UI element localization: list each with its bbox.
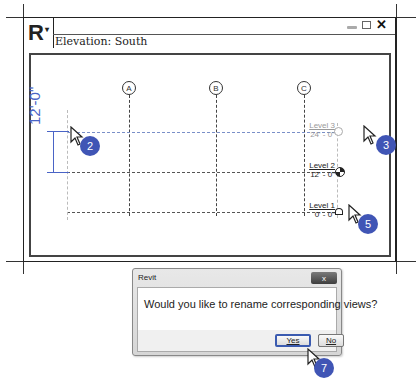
step-number: 5 — [365, 218, 371, 230]
step-badge-5: 5 — [358, 214, 378, 234]
dialog-body: Would you like to rename corresponding v… — [137, 287, 337, 332]
grid-label: A — [126, 84, 131, 93]
grid-line-c[interactable] — [304, 95, 305, 216]
level-extent-left — [67, 110, 68, 220]
drawing-canvas[interactable]: A B C Level 3 24' - 0" Level 2 12' - 0" … — [29, 53, 391, 257]
minimize-icon[interactable] — [347, 26, 357, 29]
close-icon: x — [322, 274, 326, 283]
step-number: 7 — [321, 362, 327, 374]
no-button-face[interactable]: No — [318, 334, 344, 347]
step-badge-7: 7 — [314, 358, 334, 378]
dimension-line[interactable] — [53, 132, 54, 172]
dialog-message: Would you like to rename corresponding v… — [144, 298, 377, 310]
window-controls: ✕ — [347, 19, 387, 31]
close-icon[interactable]: ✕ — [376, 19, 387, 31]
level-2-label[interactable]: Level 2 12' - 0" — [301, 161, 335, 179]
level-3-label[interactable]: Level 3 24' - 0" — [301, 121, 335, 139]
level-name[interactable]: Level 3 — [301, 121, 335, 130]
dimension-text[interactable]: 12'-0" — [26, 87, 43, 125]
grid-line-b[interactable] — [216, 95, 217, 216]
step-number: 3 — [383, 139, 389, 151]
dialog-close-button[interactable]: x — [311, 272, 337, 284]
chevron-down-icon: ▾ — [45, 25, 49, 34]
rename-views-dialog: Revit x Would you like to rename corresp… — [132, 268, 342, 356]
level-elevation[interactable]: 12' - 0" — [301, 170, 335, 179]
level-3-head-icon[interactable] — [334, 127, 343, 136]
grid-bubble-b[interactable]: B — [209, 81, 223, 95]
dimension-tick-top — [47, 131, 69, 132]
grid-bubble-c[interactable]: C — [297, 81, 311, 95]
cursor-arrow-icon — [363, 125, 377, 145]
dimension-tick-bottom — [47, 172, 69, 173]
level-name[interactable]: Level 2 — [301, 161, 335, 170]
grid-label: B — [213, 84, 218, 93]
yes-label: Yes — [286, 336, 299, 345]
dialog-title: Revit — [138, 273, 156, 282]
grid-bubble-a[interactable]: A — [122, 81, 136, 95]
revit-logo: R — [28, 20, 44, 46]
level-elevation[interactable]: 0' - 0" — [301, 210, 335, 219]
grid-label: C — [301, 84, 307, 93]
level-name[interactable]: Level 1 — [301, 201, 335, 210]
level-elevation[interactable]: 24' - 0" — [301, 130, 335, 139]
view-titlebar: Elevation: South — [53, 34, 395, 49]
revit-logo-button[interactable]: R▾ — [24, 18, 54, 48]
step-badge-3: 3 — [376, 135, 396, 155]
step-number: 2 — [87, 140, 93, 152]
level-line-2[interactable] — [67, 172, 335, 173]
yes-button[interactable]: Yes — [275, 334, 311, 347]
no-label: No — [326, 336, 336, 345]
level-line-1[interactable] — [67, 212, 335, 213]
level-1-head-icon[interactable] — [335, 208, 343, 215]
level-line-3[interactable] — [67, 132, 335, 133]
grid-line-a[interactable] — [129, 95, 130, 216]
level-2-head-icon[interactable] — [335, 167, 345, 177]
view-title: Elevation: South — [55, 35, 147, 48]
step-badge-2: 2 — [80, 136, 100, 156]
level-1-label[interactable]: Level 3 Level 1 0' - 0" — [301, 201, 335, 219]
maximize-icon[interactable] — [362, 21, 371, 29]
